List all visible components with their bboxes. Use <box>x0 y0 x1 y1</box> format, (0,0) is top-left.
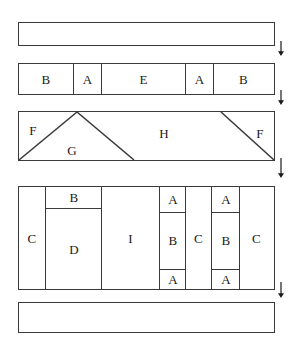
diagram-root: B A E A B F G H F C <box>0 0 303 353</box>
flow-arrows-group <box>0 0 303 353</box>
